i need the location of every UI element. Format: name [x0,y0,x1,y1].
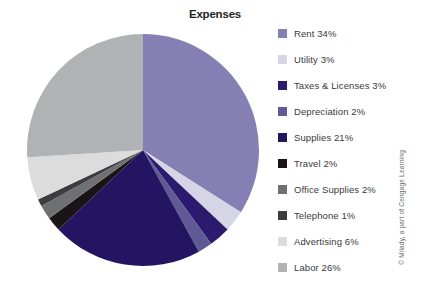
legend-item-label: Office Supplies 2% [294,184,376,195]
legend-swatch-icon [278,185,287,194]
legend-item-utility[interactable]: Utility 3% [278,46,418,72]
expenses-pie-figure: Expenses Rent 34%Utility 3%Taxes & Licen… [0,0,427,287]
legend-swatch-icon [278,29,287,38]
legend-swatch-icon [278,133,287,142]
legend-item-label: Depreciation 2% [294,106,365,117]
pie-chart-svg [26,33,260,267]
legend-item-telephone[interactable]: Telephone 1% [278,202,418,228]
legend-item-label: Utility 3% [294,54,335,65]
legend-item-office-supplies[interactable]: Office Supplies 2% [278,176,418,202]
legend-item-label: Rent 34% [294,28,337,39]
pie-chart [26,33,260,267]
legend-swatch-icon [278,237,287,246]
chart-legend: Rent 34%Utility 3%Taxes & Licenses 3%Dep… [278,20,418,280]
legend-swatch-icon [278,263,287,272]
legend-item-label: Advertising 6% [294,236,359,247]
legend-item-supplies[interactable]: Supplies 21% [278,124,418,150]
chart-title: Expenses [150,8,280,20]
legend-item-depreciation[interactable]: Depreciation 2% [278,98,418,124]
legend-swatch-icon [278,107,287,116]
legend-swatch-icon [278,211,287,220]
legend-swatch-icon [278,55,287,64]
legend-item-rent[interactable]: Rent 34% [278,20,418,46]
legend-item-travel[interactable]: Travel 2% [278,150,418,176]
legend-item-taxes-licenses[interactable]: Taxes & Licenses 3% [278,72,418,98]
legend-swatch-icon [278,81,287,90]
copyright-credit: © Milady, a part of Cengage Learning [398,150,405,265]
pie-slice-labor [27,34,143,157]
legend-item-labor[interactable]: Labor 26% [278,254,418,280]
legend-item-label: Labor 26% [294,262,341,273]
pie-slice-group [27,34,259,266]
legend-item-label: Travel 2% [294,158,337,169]
legend-item-label: Taxes & Licenses 3% [294,80,386,91]
legend-swatch-icon [278,159,287,168]
legend-item-label: Supplies 21% [294,132,353,143]
legend-item-label: Telephone 1% [294,210,355,221]
legend-item-advertising[interactable]: Advertising 6% [278,228,418,254]
